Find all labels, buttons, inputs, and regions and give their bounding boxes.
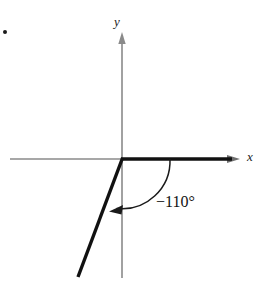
x-axis-label: x <box>247 150 253 163</box>
angle-diagram-figure: y x −110° <box>0 0 277 291</box>
angle-arc-arrowhead-icon <box>109 205 123 215</box>
terminal-side-ray <box>78 158 123 277</box>
y-axis-label: y <box>114 15 120 28</box>
angle-measure-label: −110° <box>156 194 195 210</box>
y-axis <box>118 32 125 278</box>
y-axis-arrowhead-icon <box>118 32 125 44</box>
diagram-canvas <box>0 0 277 291</box>
